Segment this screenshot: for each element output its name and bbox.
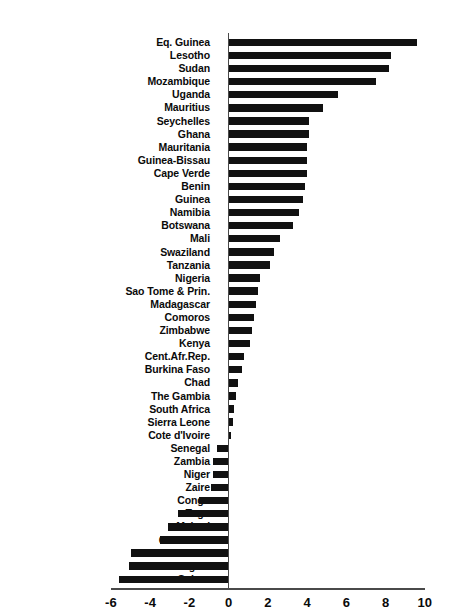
bar [229,379,239,386]
bar [229,130,309,137]
bar [229,235,280,242]
bar [229,78,376,85]
zero-axis-line [228,33,229,588]
bar [229,91,339,98]
bar [119,576,229,583]
bar [211,484,229,491]
x-tick-label: 10 [418,595,432,610]
x-tick-label: -2 [184,595,196,610]
bar [229,301,256,308]
bar [229,170,307,177]
bar [229,327,253,334]
x-tick-label: -4 [144,595,156,610]
bar [229,196,304,203]
bar [199,497,228,504]
bar [229,405,235,412]
x-tick-label: 4 [303,595,310,610]
bar [213,458,229,465]
x-tick-label: -6 [105,595,117,610]
x-tick-label: 8 [382,595,389,610]
bar [229,261,270,268]
bar [160,536,229,543]
bar [229,157,307,164]
bar [229,183,306,190]
bar [229,274,260,281]
x-tick-label: 2 [264,595,271,610]
bar [168,523,229,530]
bar [229,65,390,72]
bar [129,562,229,569]
x-tick-label: 0 [225,595,232,610]
bar [229,314,255,321]
x-axis-line [111,588,425,590]
x-axis-tick-labels: -6-4-20246810 [0,595,458,611]
bar [229,52,392,59]
bar [131,549,229,556]
bar [229,287,258,294]
bar [178,510,229,517]
bar [229,353,245,360]
bar [229,392,237,399]
bar [229,117,309,124]
bar [229,143,307,150]
bar [229,248,274,255]
bar [229,209,300,216]
bar [217,445,229,452]
bar [229,104,323,111]
bar [213,471,229,478]
bar [229,222,294,229]
bar [229,39,417,46]
bar [229,340,251,347]
bar [229,366,243,373]
x-tick-label: 6 [343,595,350,610]
